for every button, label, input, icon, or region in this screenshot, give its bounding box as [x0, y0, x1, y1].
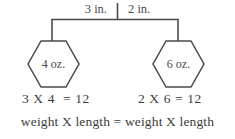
summary-equation: weight X length = weight X length [0, 114, 235, 130]
right-distance-label: 2 in. [128, 2, 150, 16]
left-weight-label: 4 oz. [42, 57, 65, 71]
equations-row: 3 X 4 = 12 2 X 6 = 12 [0, 91, 235, 113]
right-equation: 2 X 6 = 12 [138, 91, 202, 107]
left-distance-label: 3 in. [85, 2, 107, 16]
summary-equation-text: weight X length = weight X length [21, 114, 214, 129]
right-weight-label: 6 oz. [167, 57, 190, 71]
left-equation: 3 X 4 = 12 [22, 91, 90, 107]
balance-diagram: 3 in. 2 in. 4 oz. 6 oz. 3 X 4 = 12 2 X 6… [0, 0, 235, 139]
balance-scale-graphic: 3 in. 2 in. 4 oz. 6 oz. [0, 0, 235, 92]
